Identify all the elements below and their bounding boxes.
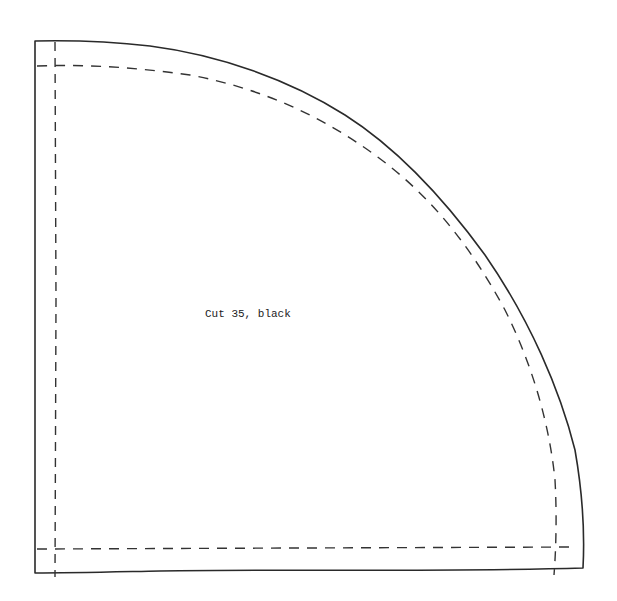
seam-line-arc (37, 65, 556, 575)
seam-line-bottom (37, 547, 573, 549)
pattern-piece-diagram (0, 0, 617, 601)
cut-instruction-label: Cut 35, black (205, 308, 291, 320)
seam-line-left (55, 42, 56, 577)
cut-line-outline (35, 41, 584, 573)
